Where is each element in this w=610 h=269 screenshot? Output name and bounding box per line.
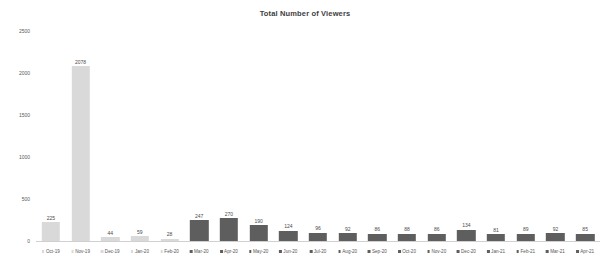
- y-axis-tick-label: 1500: [2, 112, 30, 118]
- bar-group[interactable]: 92: [541, 31, 571, 241]
- category-marker-icon: [487, 250, 490, 253]
- bar-group[interactable]: 28: [155, 31, 185, 241]
- x-axis-tick-text: Dec-20: [461, 248, 476, 255]
- y-axis-tick-label: 0: [2, 238, 30, 244]
- x-axis-tick-text: Jan-20: [135, 248, 149, 255]
- bar[interactable]: [249, 225, 267, 241]
- x-axis-tick-label: May-20: [249, 248, 268, 255]
- x-axis-tick-text: Mar-21: [550, 248, 565, 255]
- bar-group[interactable]: 225: [36, 31, 66, 241]
- x-axis-tick-text: Oct-20: [402, 248, 416, 255]
- x-axis-tick-label: Apr-21: [576, 248, 594, 255]
- bar-value-label: 88: [404, 226, 410, 232]
- plot-area: 2252078445928247270190124969286888613481…: [36, 31, 600, 241]
- bar-group[interactable]: 2078: [66, 31, 96, 241]
- bar[interactable]: [398, 234, 416, 241]
- bar-group[interactable]: 86: [422, 31, 452, 241]
- bar[interactable]: [487, 234, 505, 241]
- x-axis-tick-text: Mar-20: [194, 248, 209, 255]
- bar-group[interactable]: 85: [570, 31, 600, 241]
- x-axis-tick-text: Nov-20: [431, 248, 446, 255]
- bar-group[interactable]: 124: [273, 31, 303, 241]
- bar-value-label: 59: [137, 229, 143, 235]
- bar-value-label: 86: [375, 226, 381, 232]
- category-marker-icon: [516, 250, 519, 253]
- bar[interactable]: [309, 233, 327, 241]
- x-axis-tick-text: May-20: [253, 248, 268, 255]
- category-marker-icon: [368, 250, 371, 253]
- bar-value-label: 124: [284, 223, 292, 229]
- y-axis-tick-label: 2500: [2, 28, 30, 34]
- bar[interactable]: [338, 233, 356, 241]
- chart-title: Total Number of Viewers: [0, 9, 610, 18]
- x-axis-tick-label: Feb-20: [160, 248, 179, 255]
- x-axis-labels: Oct-19Nov-19Dec-19Jan-20Feb-20Mar-20Apr-…: [36, 248, 600, 262]
- bar-group[interactable]: 270: [214, 31, 244, 241]
- bar-group[interactable]: 96: [303, 31, 333, 241]
- bar[interactable]: [428, 234, 446, 241]
- bar-value-label: 2078: [75, 59, 86, 65]
- bar[interactable]: [279, 231, 297, 241]
- x-axis-tick-label: Nov-20: [427, 248, 446, 255]
- y-axis-tick-label: 1000: [2, 154, 30, 160]
- bar-value-label: 81: [493, 227, 499, 233]
- category-marker-icon: [249, 250, 252, 253]
- x-axis-tick-text: Nov-19: [75, 248, 90, 255]
- bar-group[interactable]: 134: [452, 31, 482, 241]
- bar-value-label: 190: [254, 218, 262, 224]
- category-marker-icon: [427, 250, 430, 253]
- x-axis-tick-label: Oct-19: [42, 248, 60, 255]
- bar[interactable]: [160, 239, 178, 241]
- bar-group[interactable]: 190: [244, 31, 274, 241]
- category-marker-icon: [160, 250, 163, 253]
- x-axis-tick-label: Sep-20: [368, 248, 387, 255]
- chart-container: Total Number of Viewers 0500100015002000…: [0, 0, 610, 269]
- category-marker-icon: [546, 250, 549, 253]
- bar-value-label: 134: [462, 222, 470, 228]
- bar-group[interactable]: 44: [95, 31, 125, 241]
- bar-group[interactable]: 92: [333, 31, 363, 241]
- x-axis-tick-text: Apr-20: [224, 248, 238, 255]
- bar-group[interactable]: 59: [125, 31, 155, 241]
- category-marker-icon: [71, 250, 74, 253]
- bar-value-label: 28: [167, 231, 173, 237]
- bar-group[interactable]: 86: [363, 31, 393, 241]
- bar-value-label: 247: [195, 213, 203, 219]
- category-marker-icon: [457, 250, 460, 253]
- x-axis-tick-label: Apr-20: [220, 248, 238, 255]
- bar-value-label: 96: [315, 225, 321, 231]
- category-marker-icon: [42, 250, 45, 253]
- x-axis-tick-text: Feb-20: [164, 248, 179, 255]
- x-axis-tick-text: Jun-20: [283, 248, 297, 255]
- bar-group[interactable]: 89: [511, 31, 541, 241]
- x-axis-tick-label: Jul-20: [310, 248, 327, 255]
- bar[interactable]: [457, 230, 475, 241]
- bar[interactable]: [220, 218, 238, 241]
- bar-value-label: 92: [553, 226, 559, 232]
- x-axis-tick-label: Dec-20: [457, 248, 476, 255]
- category-marker-icon: [279, 250, 282, 253]
- bar[interactable]: [517, 234, 535, 241]
- x-axis-tick-text: Aug-20: [342, 248, 357, 255]
- bar-value-label: 89: [523, 226, 529, 232]
- x-axis-tick-label: Mar-20: [190, 248, 209, 255]
- category-marker-icon: [190, 250, 193, 253]
- bar[interactable]: [368, 234, 386, 241]
- bar[interactable]: [42, 222, 60, 241]
- bar-group[interactable]: 247: [184, 31, 214, 241]
- bar[interactable]: [101, 237, 119, 241]
- bar-group[interactable]: 88: [392, 31, 422, 241]
- bar[interactable]: [576, 234, 594, 241]
- bar[interactable]: [190, 220, 208, 241]
- bar[interactable]: [131, 236, 149, 241]
- bar[interactable]: [71, 66, 89, 241]
- category-marker-icon: [101, 250, 104, 253]
- x-axis-line: [36, 241, 600, 242]
- category-marker-icon: [220, 250, 223, 253]
- x-axis-tick-label: Feb-21: [516, 248, 535, 255]
- x-axis-tick-text: Feb-21: [521, 248, 536, 255]
- bar-group[interactable]: 81: [481, 31, 511, 241]
- x-axis-tick-label: Mar-21: [546, 248, 565, 255]
- bar-value-label: 44: [107, 230, 113, 236]
- bar[interactable]: [546, 233, 564, 241]
